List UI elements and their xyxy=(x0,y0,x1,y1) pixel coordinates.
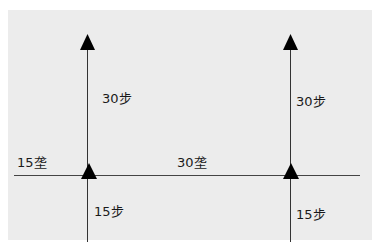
right-upper-distance-label: 30步 xyxy=(296,95,326,108)
left-up-arrow-icon xyxy=(80,34,95,50)
left-upper-distance-label: 30步 xyxy=(102,92,132,105)
right-lower-distance-label: 15步 xyxy=(296,208,326,221)
horizontal-left-distance-label: 15垄 xyxy=(17,156,47,169)
right-up-arrow-icon xyxy=(283,34,298,50)
left-lower-distance-label: 15步 xyxy=(94,205,124,218)
left-intersection-marker-icon xyxy=(81,163,97,179)
right-intersection-marker-icon xyxy=(283,163,299,179)
horizontal-middle-distance-label: 30垄 xyxy=(177,156,207,169)
